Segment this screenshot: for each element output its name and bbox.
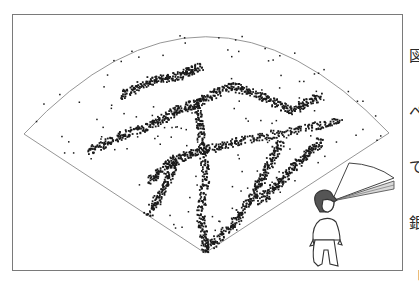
side-caption-text: 図 ペ で 銀 「 ト ガ: [409, 10, 419, 283]
galaxy-survey-figure: [0, 0, 419, 283]
side-text-line: 図: [409, 47, 419, 66]
side-text-line: 銀: [409, 214, 419, 233]
mini-fan-icon: [332, 163, 394, 201]
observer-person-icon: [310, 190, 342, 266]
side-text-line: ペ: [409, 103, 419, 122]
side-text-line: で: [409, 158, 419, 177]
side-text-line: 「: [409, 269, 419, 283]
